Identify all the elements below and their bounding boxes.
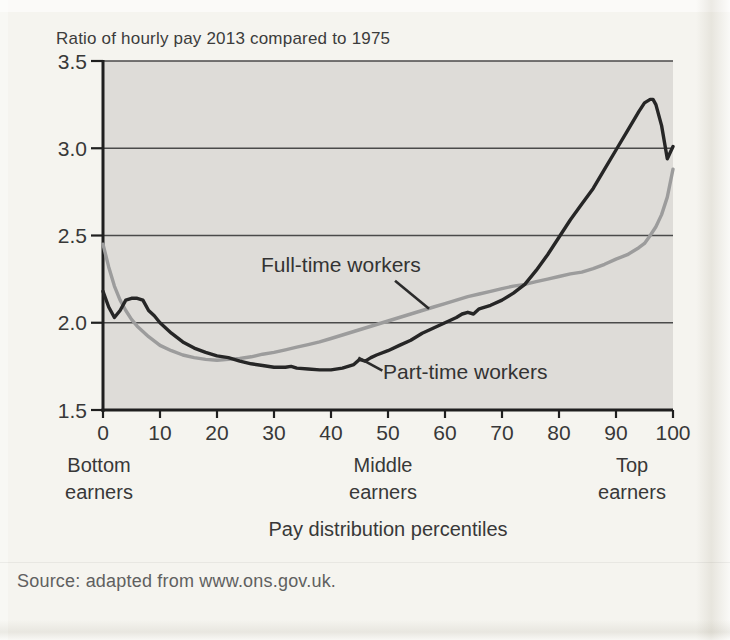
chart-title: Ratio of hourly pay 2013 compared to 197… [56, 29, 390, 49]
group-label-line: earners [65, 479, 133, 506]
y-tick-label-1.5: 1.5 [58, 399, 87, 422]
x-tick-label-70: 70 [490, 421, 513, 444]
x-tick-label-90: 90 [604, 421, 627, 444]
pay-ratio-chart: 1.52.02.53.03.50102030405060708090100 [0, 0, 730, 640]
faint-divider-rule [0, 562, 730, 563]
x-tick-label-0: 0 [97, 421, 109, 444]
group-label-line: Middle [349, 452, 417, 479]
page-edge-shadow [696, 0, 730, 640]
group-label-bottom-earners: Bottom earners [65, 452, 133, 506]
full-time-series-label: Full-time workers [261, 253, 421, 277]
x-tick-label-100: 100 [655, 421, 690, 444]
group-label-line: earners [598, 479, 666, 506]
y-tick-label-3.5: 3.5 [58, 50, 87, 73]
y-tick-label-2.5: 2.5 [58, 224, 87, 247]
x-tick-label-40: 40 [319, 421, 342, 444]
source-note: Source: adapted from www.ons.gov.uk. [17, 571, 336, 592]
book-page: 1.52.02.53.03.50102030405060708090100 Ra… [0, 0, 730, 640]
group-label-line: Top [598, 452, 666, 479]
group-label-line: earners [349, 479, 417, 506]
group-label-middle-earners: Middle earners [349, 452, 417, 506]
page-edge-left [0, 0, 8, 640]
y-tick-label-2: 2.0 [58, 311, 87, 334]
y-tick-label-3: 3.0 [58, 137, 87, 160]
group-label-line: Bottom [65, 452, 133, 479]
x-tick-label-30: 30 [262, 421, 285, 444]
group-label-top-earners: Top earners [598, 452, 666, 506]
x-tick-label-50: 50 [376, 421, 399, 444]
part-time-series-label: Part-time workers [383, 360, 548, 384]
page-edge-bottom [0, 620, 730, 640]
x-tick-label-80: 80 [547, 421, 570, 444]
x-tick-label-60: 60 [433, 421, 456, 444]
x-axis-title: Pay distribution percentiles [188, 518, 588, 541]
page-edge-top [0, 0, 730, 12]
x-tick-label-10: 10 [148, 421, 171, 444]
x-tick-label-20: 20 [205, 421, 228, 444]
